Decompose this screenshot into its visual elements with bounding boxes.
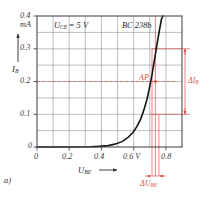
condition-subscript: CE: [60, 24, 67, 30]
operating-point-marker: [154, 80, 157, 83]
x-tick-label-0.8: 0.8: [161, 153, 171, 161]
y-axis-symbol-subscript: B: [15, 68, 19, 74]
x-tick-label-0.6V: 0.6 V: [123, 153, 140, 161]
x-tick-label-0: 0: [34, 153, 38, 161]
x-axis-symbol-subscript: BE: [84, 169, 91, 175]
y-tick-label-0.3: 0.3: [20, 44, 30, 52]
device-label: BC 238b: [122, 22, 152, 30]
delta-voltage-subscript: BE: [150, 182, 157, 188]
figure-label: a): [4, 177, 11, 185]
y-axis-symbol: IB: [12, 65, 18, 75]
delta-voltage-symbol: ΔU: [140, 179, 150, 188]
y-tick-label-0: 0: [28, 142, 32, 150]
operating-point-label: AP: [139, 74, 149, 82]
y-axis-top-value: 0.4: [20, 12, 30, 20]
transistor-input-characteristic-figure: [0, 0, 206, 198]
y-tick-label-0.1: 0.1: [20, 110, 30, 118]
y-tick-label-0.2: 0.2: [20, 77, 30, 85]
delta-current-subscript: B: [195, 79, 198, 85]
x-axis-symbol: UBE: [78, 166, 91, 176]
x-tick-label-0.2: 0.2: [62, 153, 72, 161]
y-axis-unit: mA: [20, 21, 31, 29]
x-tick-label-0.4: 0.4: [94, 153, 104, 161]
delta-current-label: ΔIB: [188, 77, 199, 86]
condition-value: = 5 V: [69, 21, 88, 30]
delta-voltage-label: ΔUBE: [140, 180, 157, 189]
condition-label: UCE= 5 V: [54, 22, 88, 31]
